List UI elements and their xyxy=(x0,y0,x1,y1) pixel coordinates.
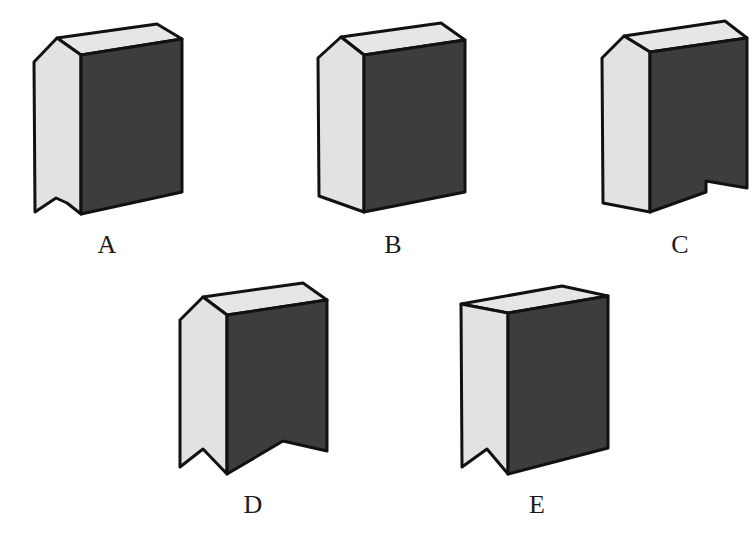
option-label-a: A xyxy=(98,230,117,260)
option-label-e: E xyxy=(529,490,545,520)
option-label-b: B xyxy=(384,230,401,260)
shape-d-dark-face xyxy=(227,300,327,474)
shape-b-dark-face xyxy=(364,40,465,212)
shape-c xyxy=(602,21,747,212)
shape-b xyxy=(318,23,465,212)
option-label-c: C xyxy=(671,230,688,260)
shape-d xyxy=(180,283,327,474)
shape-a-dark-face xyxy=(81,39,182,214)
shape-e-light-face xyxy=(461,304,508,474)
shape-c-dark-face xyxy=(650,38,747,212)
option-label-d: D xyxy=(244,490,263,520)
shape-a xyxy=(34,24,182,214)
shape-e-dark-face xyxy=(508,296,608,474)
shape-e xyxy=(461,286,608,474)
figure-canvas xyxy=(0,0,756,533)
shape-d-light-face xyxy=(180,297,227,474)
shape-b-light-face xyxy=(318,37,364,212)
shape-c-light-face xyxy=(602,36,650,212)
shape-a-light-face xyxy=(34,38,81,214)
